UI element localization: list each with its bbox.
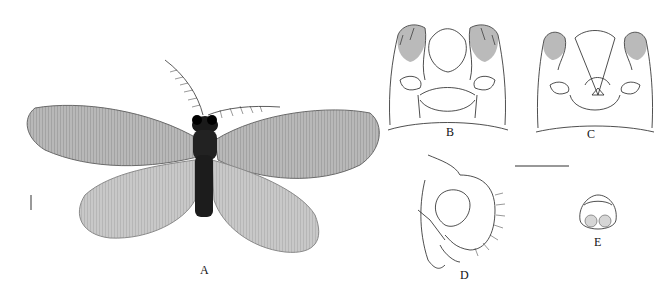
panel-label-c: C (587, 127, 595, 142)
antennae (165, 60, 280, 118)
figure-plate (0, 0, 670, 300)
panel-label-a: A (200, 263, 209, 278)
panel-label-e: E (594, 235, 601, 250)
left-forewing (27, 105, 205, 165)
abdomen (195, 155, 213, 217)
panel-label-b: B (446, 125, 454, 140)
panel-d-drawing (418, 155, 495, 268)
panel-label-d: D (460, 268, 469, 283)
left-hindwing (79, 160, 195, 238)
panel-e-drawing (580, 195, 616, 229)
panel-a-insect-photo (27, 60, 379, 252)
